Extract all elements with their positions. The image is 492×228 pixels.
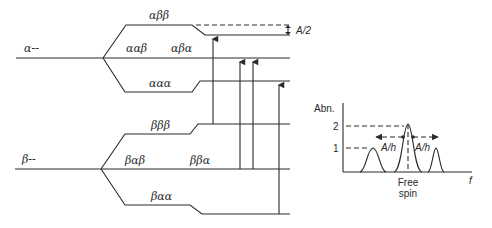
state-label-baa: βαα — [150, 190, 173, 203]
a-over-h-left-label: A/h — [380, 142, 396, 153]
level-alpha-alpha-alpha — [103, 58, 290, 92]
alpha-manifold: α-- αββ ααβ αβα ααα A/2 — [16, 9, 311, 92]
energy-level-diagram: α-- αββ ααβ αβα ααα A/2 β-- βββ βαβ ββα … — [0, 0, 492, 228]
free-spin-label-line1: Free — [398, 177, 419, 188]
beta-manifold: β-- βββ βαβ ββα βαα — [15, 119, 290, 214]
free-spin-label-line2: spin — [399, 188, 417, 199]
y-axis-label: Abn. — [314, 103, 335, 114]
arrow-origin-left-dot — [401, 135, 405, 139]
alpha-label: α-- — [24, 42, 39, 55]
arrow-origin-right-dot — [411, 135, 415, 139]
y-tick-1: 1 — [333, 143, 339, 154]
x-axis-label: f — [469, 175, 473, 186]
state-label-bba: ββα — [189, 154, 211, 167]
state-label-aba: αβα — [171, 42, 193, 55]
state-label-abb: αββ — [149, 9, 169, 22]
a-over-h-right-label: A/h — [414, 142, 430, 153]
state-label-bab: βαβ — [124, 154, 145, 167]
y-tick-2: 2 — [333, 121, 339, 132]
peak-right — [428, 148, 444, 172]
beta-label: β-- — [21, 153, 36, 166]
esr-spectrum: Abn. 2 1 f A/h A/h Free spin — [314, 103, 473, 199]
transitions — [213, 39, 279, 214]
a-half-label: A/2 — [295, 25, 311, 36]
state-label-aaa: ααα — [149, 77, 172, 90]
state-label-bbb: βββ — [150, 119, 170, 132]
level-beta-alpha-alpha — [101, 169, 290, 214]
state-label-aab: ααβ — [126, 42, 147, 55]
